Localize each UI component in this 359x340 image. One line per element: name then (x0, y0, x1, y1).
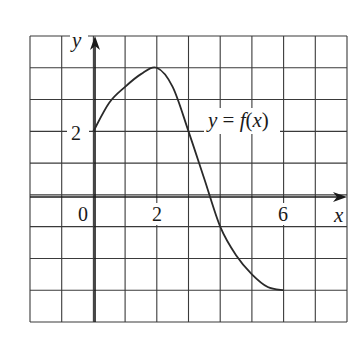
grid (30, 36, 347, 322)
function-label: y = f(x) (206, 108, 269, 132)
function-graph: y = f(x) y x 2 0 2 6 (0, 0, 359, 340)
y-tick-2: 2 (71, 122, 81, 144)
x-tick-2: 2 (152, 203, 162, 225)
x-axis-label: x (333, 203, 344, 227)
x-tick-6: 6 (278, 203, 288, 225)
x-tick-0: 0 (78, 203, 88, 225)
y-axis-label: y (70, 28, 82, 52)
